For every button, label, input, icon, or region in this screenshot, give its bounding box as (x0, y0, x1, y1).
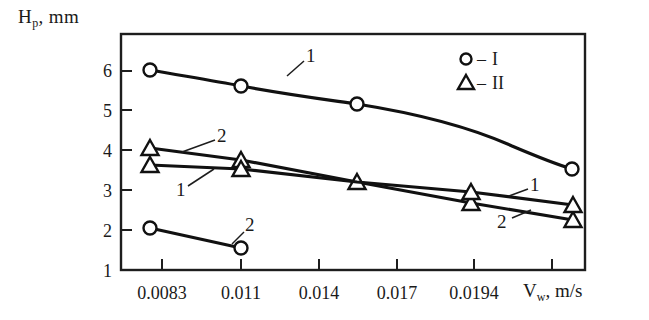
series-I-1 (144, 64, 579, 176)
curve-annotation-I-2: 2 (232, 214, 255, 244)
series-I-1-line (150, 70, 572, 169)
data-point (235, 242, 248, 255)
legend-entry-I: – I (461, 49, 499, 69)
curve-annotation-II-2: 2 (182, 125, 227, 152)
data-point (566, 163, 579, 176)
curve-annotation-II-1-left: 1 (176, 169, 214, 200)
curve-annotation-label: 1 (176, 179, 186, 200)
legend-dash: – (476, 49, 487, 69)
series-I-2-line (150, 228, 241, 248)
triangle-marker-icon (458, 75, 474, 89)
x-axis-ticks (162, 259, 552, 270)
curve-annotation-label: 2 (497, 211, 507, 232)
data-point (351, 98, 364, 111)
y-axis-ticks (121, 71, 132, 230)
curve-annotation-label: 2 (245, 214, 255, 235)
curve-annotation-I-1: 1 (287, 45, 316, 76)
curve-annotation-label: 1 (530, 174, 540, 195)
data-point (235, 80, 248, 93)
plot-canvas: 1 2 1 1 2 2 – I (0, 0, 649, 320)
circle-marker-icon (461, 54, 472, 65)
legend-entry-II: – II (458, 73, 504, 93)
legend-label-II: II (492, 73, 504, 93)
series-I-2 (144, 222, 248, 255)
curve-annotation-label: 1 (306, 45, 316, 66)
curve-annotation-label: 2 (217, 125, 227, 146)
chart-figure: Hp, mm Vw, m/s 6 5 4 3 2 1 0.0083 0.011 … (0, 0, 649, 320)
curve-annotation-II-1-right: 1 (509, 174, 540, 196)
legend-label-I: I (492, 49, 498, 69)
legend: – I – II (458, 49, 504, 93)
data-point (144, 222, 157, 235)
legend-dash: – (476, 73, 487, 93)
data-point (144, 64, 157, 77)
